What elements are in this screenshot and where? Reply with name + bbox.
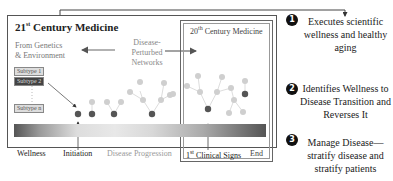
benefit-1-text: Executes scientific wellness and healthy…	[298, 15, 393, 54]
disease-progression-label: Disease Progression	[107, 149, 172, 158]
end-label: End	[250, 149, 263, 158]
subtype-n-label: Subtype n	[14, 104, 44, 113]
disease-progression-gradient-bar	[14, 124, 266, 137]
initiation-label: Initiation	[63, 149, 92, 158]
clinical-signs-label: 1st Clinical Signs	[186, 149, 241, 160]
wellness-label: Wellness	[17, 149, 46, 158]
number-3-badge: 3	[286, 134, 298, 146]
benefit-2-text: Identifies Wellness to Disease Transitio…	[298, 82, 393, 121]
benefit-3-text: Manage Disease—stratify disease and stra…	[298, 136, 393, 175]
genetics-environment-label: From Genetics & Environment	[15, 41, 65, 61]
subtype-2-label: Subtype 2	[14, 77, 44, 86]
number-2-badge: 2	[286, 83, 298, 95]
21st-century-title: 21st Century Medicine	[15, 21, 118, 33]
disease-perturbed-networks-label: Disease- Perturbed Networks	[122, 38, 172, 68]
subtype-1-label: Subtype 1	[14, 67, 44, 76]
20th-century-title: 20th Century Medicine	[190, 25, 263, 36]
20th-century-panel-inner	[183, 23, 270, 159]
number-1-badge: 1	[286, 14, 298, 26]
